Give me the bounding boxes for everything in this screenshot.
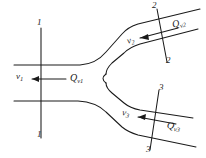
velocity-subscript-v1: 1 (20, 75, 23, 82)
splitter-nose (103, 74, 106, 83)
section-label-3-top: 3 (159, 83, 164, 92)
wall-inlet-upper (14, 9, 200, 65)
velocity-label-v1: v1 (16, 72, 23, 81)
section-label-3-bottom: 3 (146, 145, 151, 154)
section-label-1-top: 1 (37, 18, 42, 27)
flow-label-qv1: Qv1 (70, 73, 83, 83)
section-label-2-top: 2 (152, 1, 157, 10)
arrow-v2 (140, 28, 178, 40)
section-label-2-bottom: 2 (166, 56, 171, 65)
arrow-v1 (32, 76, 66, 82)
flow-subscript-qv1: v1 (77, 77, 83, 84)
flow-label-qv3: Qv3 (166, 120, 181, 132)
flow-subscript-qv3: v3 (173, 125, 180, 133)
velocity-label-v3: v3 (121, 108, 130, 118)
wall-lower-branch-upper (106, 83, 193, 118)
flow-label-qv2: Qv2 (171, 17, 186, 30)
section-label-1-bottom: 1 (37, 130, 42, 139)
flow-subscript-qv2: v2 (179, 21, 187, 29)
pipe-branch-figure: 1 1 2 2 3 3 v1 v2 v3 Qv1 Qv2 Qv3 (0, 0, 206, 158)
